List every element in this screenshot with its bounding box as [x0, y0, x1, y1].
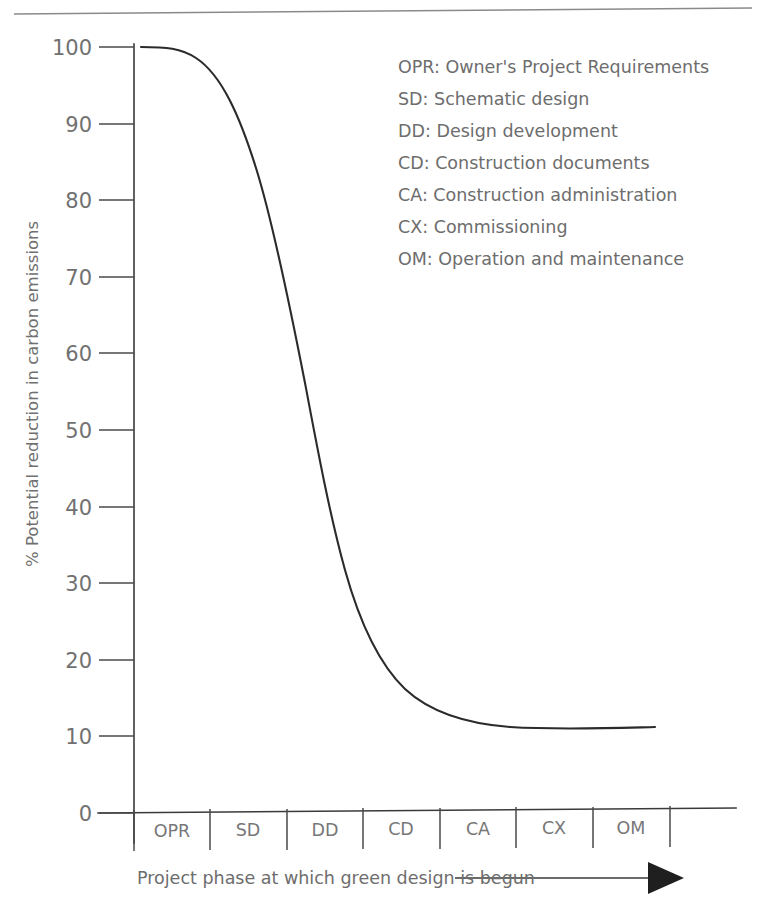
caption-arrow-head [648, 862, 684, 894]
y-tick-label: 0 [79, 802, 92, 826]
legend-item-dd: DD: Design development [398, 121, 618, 141]
y-tick-label: 40 [65, 496, 92, 520]
x-axis-line [98, 808, 736, 813]
x-tick-label-cd: CD [388, 819, 414, 839]
x-axis-tick-labels: OPR SD DD CD CA CX OM [154, 818, 646, 841]
y-tick-label: 20 [65, 649, 92, 673]
x-tick-label-om: OM [617, 818, 646, 838]
x-tick-label-sd: SD [236, 820, 261, 840]
legend-item-om: OM: Operation and maintenance [398, 249, 684, 269]
y-tick-label: 90 [65, 113, 92, 137]
legend-item-sd: SD: Schematic design [398, 89, 589, 109]
y-tick-label: 60 [65, 342, 92, 366]
x-tick-label-ca: CA [466, 819, 490, 839]
legend-item-opr: OPR: Owner's Project Requirements [398, 57, 709, 77]
y-tick-label: 50 [65, 419, 92, 443]
x-tick-label-dd: DD [312, 820, 339, 840]
legend-item-cx: CX: Commissioning [398, 217, 568, 237]
x-tick-label-opr: OPR [154, 821, 191, 841]
chart-figure: 100 90 80 70 60 50 40 30 20 10 0 % Poten… [0, 0, 764, 916]
y-axis-ticks [99, 47, 134, 813]
x-tick-label-cx: CX [542, 818, 566, 838]
legend-item-ca: CA: Construction administration [398, 185, 677, 205]
x-axis-caption: Project phase at which green design is b… [137, 868, 535, 888]
y-tick-label: 30 [65, 572, 92, 596]
y-axis-title: % Potential reduction in carbon emission… [23, 221, 42, 567]
legend-key: OPR: Owner's Project Requirements SD: Sc… [398, 57, 709, 269]
y-tick-label: 80 [65, 189, 92, 213]
y-tick-label: 70 [65, 266, 92, 290]
emissions-reduction-curve [141, 47, 655, 729]
chart-canvas: 100 90 80 70 60 50 40 30 20 10 0 % Poten… [0, 0, 764, 916]
page-top-rule [14, 8, 752, 14]
y-axis-tick-labels: 100 90 80 70 60 50 40 30 20 10 0 [52, 36, 92, 826]
y-tick-label: 10 [65, 725, 92, 749]
y-tick-label: 100 [52, 36, 92, 60]
legend-item-cd: CD: Construction documents [398, 153, 650, 173]
